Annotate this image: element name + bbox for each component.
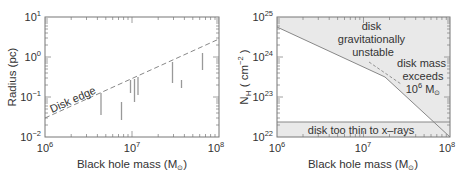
figure: Disk edge 101 100 10−1 10−2 106 107 108 …	[0, 0, 464, 174]
right-xtick-label: 108	[439, 140, 455, 154]
right-xtick-label: 107	[355, 140, 371, 154]
left-x-axis-label: Black hole mass (M⊙)	[77, 158, 187, 171]
right-plot: disk gravitationally unstable disk mass …	[236, 9, 455, 171]
too-thin-label: disk too thin to x–rays	[308, 124, 415, 136]
left-ytick-label: 101	[25, 9, 41, 23]
right-xtick-label: 106	[269, 140, 285, 154]
right-ytick-label: 1024	[252, 49, 273, 63]
left-xtick-label: 108	[208, 140, 224, 154]
right-ytick-label: 1025	[252, 9, 273, 23]
disk-mass-label: disk mass exceeds	[397, 57, 449, 82]
right-ytick-label: 1022	[252, 129, 273, 143]
left-ytick-label: 10−1	[20, 89, 41, 103]
right-x-axis-label: Black hole mass (M⊙)	[308, 158, 418, 171]
left-ytick-label: 10−2	[20, 129, 41, 143]
left-plot: Disk edge 101 100 10−1 10−2 106 107 108 …	[6, 9, 224, 171]
left-xtick-label: 107	[124, 140, 140, 154]
right-y-axis-label: NH ( cm−2 )	[236, 49, 253, 104]
left-xtick-label: 106	[37, 140, 53, 154]
left-plot-area	[45, 17, 219, 137]
left-ytick-label: 100	[25, 49, 41, 63]
left-y-axis-label: Radius (pc)	[6, 47, 18, 106]
right-ytick-label: 1023	[252, 89, 273, 103]
